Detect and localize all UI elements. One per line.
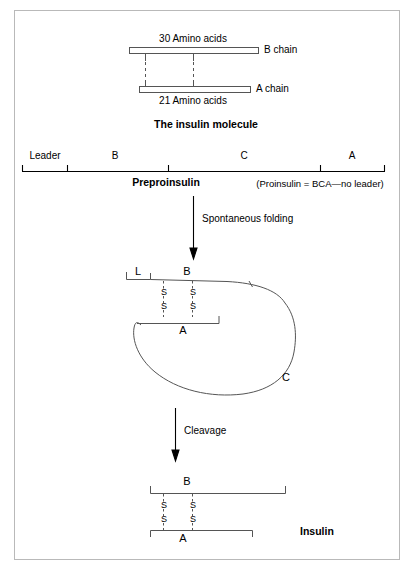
preproinsulin-name-label: Preproinsulin [132, 177, 200, 188]
b-chain-length-label: 30 Amino acids [159, 33, 227, 44]
b-chain-label: B chain [264, 44, 297, 55]
insulin-b-label: B [183, 476, 190, 487]
step-label-cleavage: Cleavage [184, 425, 226, 436]
folded-b-label: B [183, 266, 190, 277]
insulin-sulfur-label-4: S [190, 514, 196, 525]
folded-sulfur-label-4: S [190, 301, 196, 312]
insulin-a-label: A [179, 533, 186, 544]
folded-sulfur-label-1: S [161, 287, 167, 298]
insulin-sulfur-label-3: S [161, 514, 167, 525]
step-label-spontaneous-folding: Spontaneous folding [202, 213, 293, 224]
segment-label-a: A [349, 150, 356, 161]
segment-label-c: C [240, 150, 247, 161]
insulin-sulfur-label-2: S [190, 500, 196, 511]
segment-label-leader: Leader [29, 150, 60, 161]
folded-a-label: A [179, 325, 186, 336]
folded-sulfur-label-2: S [190, 287, 196, 298]
diagram-canvas: 30 Amino acids B chain 21 Amino acids A … [0, 0, 413, 571]
a-chain-length-label: 21 Amino acids [159, 95, 227, 106]
c-peptide-label: C [282, 372, 290, 383]
folded-leader-label: L [135, 266, 141, 277]
segment-label-b: B [112, 150, 119, 161]
a-chain-label: A chain [256, 83, 289, 94]
insulin-sulfur-label-1: S [161, 500, 167, 511]
diagram-frame [14, 10, 400, 560]
proinsulin-note-label: (Proinsulin = BCA—no leader) [256, 178, 384, 189]
folded-sulfur-label-3: S [161, 301, 167, 312]
insulin-molecule-caption: The insulin molecule [154, 119, 258, 130]
insulin-name-label: Insulin [300, 526, 334, 537]
